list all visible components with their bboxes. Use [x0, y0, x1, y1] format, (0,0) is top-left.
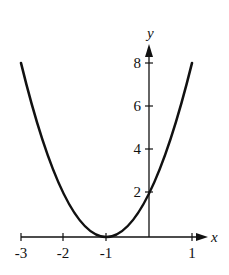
x-axis-arrow-icon — [196, 233, 208, 241]
y-axis-arrow-icon — [145, 44, 153, 57]
y-tick-label: 4 — [134, 141, 142, 157]
x-tick-label: -1 — [100, 245, 113, 261]
y-tick-label: 2 — [134, 184, 142, 200]
parabola-chart: -3 -2 -1 1 2 4 6 8 x y — [0, 0, 229, 275]
x-axis-label: x — [210, 229, 218, 245]
y-tick-label: 6 — [134, 98, 142, 114]
y-tick-label: 8 — [134, 55, 142, 71]
x-tick-label: 1 — [188, 245, 196, 261]
x-tick-label: -2 — [57, 245, 70, 261]
x-tick-label: -3 — [15, 245, 28, 261]
parabola-curve — [21, 63, 192, 237]
y-axis-label: y — [145, 25, 154, 41]
